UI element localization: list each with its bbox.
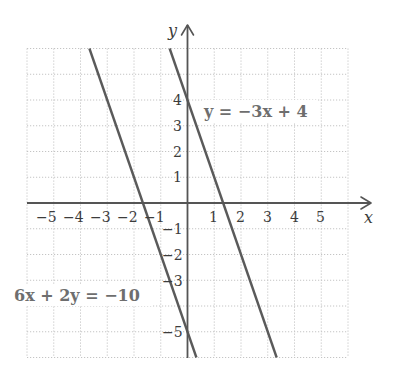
x-tick-label: 1 — [209, 209, 218, 225]
equation-label-line-2: y = −3x + 4 — [203, 102, 308, 121]
x-tick-label: −5 — [36, 209, 57, 225]
equation-label-line-1: 6x + 2y = −10 — [14, 286, 140, 305]
x-tick-label: −4 — [63, 209, 84, 225]
y-tick-label: −5 — [162, 324, 183, 340]
y-tick-label: −1 — [162, 221, 183, 237]
y-tick-label: −2 — [162, 247, 183, 263]
x-tick-label: −3 — [90, 209, 111, 225]
x-tick-label: −2 — [117, 209, 138, 225]
y-tick-label: −3 — [162, 273, 183, 289]
x-tick-label: 4 — [290, 209, 299, 225]
x-tick-label: 2 — [236, 209, 245, 225]
coordinate-plane: x y −5 −4 −3 −2 −1 1 2 3 4 5 4 3 2 1 −1 … — [0, 0, 395, 377]
x-tick-label: 3 — [263, 209, 272, 225]
y-tick-labels: 4 3 2 1 −1 −2 −3 −5 — [162, 92, 183, 340]
y-tick-label: 2 — [173, 144, 182, 160]
x-axis-label: x — [364, 208, 373, 227]
y-axis-label: y — [167, 21, 178, 40]
graph-figure: x y −5 −4 −3 −2 −1 1 2 3 4 5 4 3 2 1 −1 … — [0, 0, 395, 377]
y-tick-label: 1 — [173, 169, 182, 185]
y-tick-label: 3 — [173, 118, 182, 134]
x-tick-label: 5 — [316, 209, 325, 225]
y-tick-label: 4 — [173, 92, 182, 108]
